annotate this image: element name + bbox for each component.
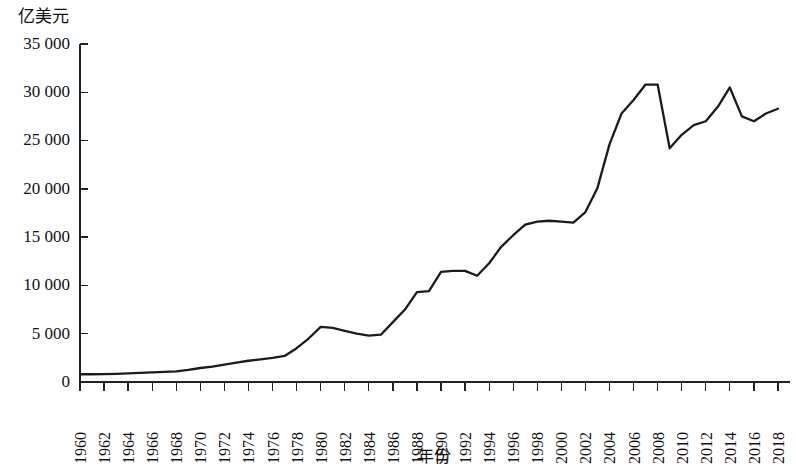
chart-container: 亿美元 05 00010 00015 00020 00025 00030 000… <box>0 0 796 468</box>
x-axis-tick-label: 1982 <box>337 432 354 464</box>
x-axis-tick-label: 2002 <box>577 432 594 464</box>
y-axis-tick-label: 15 000 <box>23 227 70 246</box>
x-axis-tick-label: 1986 <box>385 432 402 464</box>
x-axis-tick-label: 2008 <box>650 432 667 464</box>
y-axis-tick-label: 25 000 <box>23 130 70 149</box>
x-axis-tick-label: 1968 <box>168 432 185 464</box>
y-axis-ticks: 05 00010 00015 00020 00025 00030 00035 0… <box>23 34 88 391</box>
x-axis-tick-label: 1974 <box>240 432 257 464</box>
x-axis-tick-label: 2006 <box>626 432 643 464</box>
y-axis-tick-label: 35 000 <box>23 34 70 53</box>
x-axis-tick-label: 2016 <box>746 432 763 464</box>
x-axis-tick-label: 1996 <box>505 432 522 464</box>
x-axis-tick-label: 2018 <box>770 432 787 464</box>
y-axis-tick-label: 20 000 <box>23 179 70 198</box>
x-axis-tick-label: 2014 <box>722 432 739 464</box>
x-axis-tick-label: 2004 <box>601 432 618 464</box>
line-chart: 亿美元 05 00010 00015 00020 00025 00030 000… <box>0 0 796 468</box>
x-axis-tick-label: 1972 <box>216 432 233 464</box>
x-axis-tick-label: 1978 <box>289 432 306 464</box>
x-axis-tick-label: 1970 <box>192 432 209 464</box>
x-axis-tick-label: 1984 <box>361 432 378 464</box>
x-axis-tick-label: 1966 <box>144 432 161 464</box>
y-axis-tick-label: 10 000 <box>23 275 70 294</box>
x-axis-title: 年份 <box>417 447 451 466</box>
data-series-line <box>80 85 778 375</box>
x-axis-tick-label: 2000 <box>553 432 570 464</box>
x-axis-tick-label: 1980 <box>313 432 330 464</box>
y-axis-tick-label: 0 <box>62 372 71 391</box>
x-axis-tick-label: 1962 <box>96 432 113 464</box>
x-axis-tick-label: 2010 <box>674 432 691 464</box>
axis-lines <box>80 44 790 382</box>
y-axis-tick-label: 5 000 <box>32 324 70 343</box>
x-axis-tick-label: 1976 <box>265 432 282 464</box>
x-axis-title-text: 年份 <box>417 447 451 466</box>
x-axis-tick-label: 1994 <box>481 432 498 464</box>
x-axis-tick-label: 1998 <box>529 432 546 464</box>
x-axis-tick-label: 1992 <box>457 432 474 464</box>
x-axis-tick-label: 1960 <box>72 432 89 464</box>
y-axis-title: 亿美元 <box>18 7 69 26</box>
x-axis-tick-label: 2012 <box>698 432 715 464</box>
x-axis-tick-label: 1964 <box>120 432 137 464</box>
y-axis-tick-label: 30 000 <box>23 82 70 101</box>
y-axis-title-text: 亿美元 <box>18 7 69 26</box>
